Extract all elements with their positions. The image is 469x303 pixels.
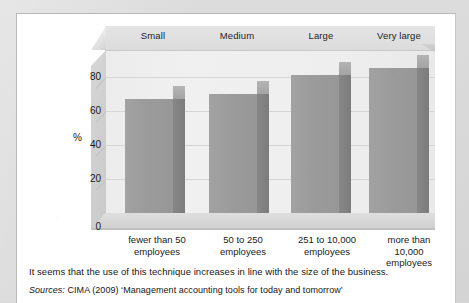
bar-very-large: [369, 68, 417, 213]
bar-very-large-side: [417, 68, 429, 213]
ytick-wrap-60: 60: [17, 111, 101, 112]
ytick-label-40: 40: [17, 139, 101, 150]
chart-floor-front-edge: [91, 228, 435, 230]
bar-small: [125, 99, 173, 213]
ytick-label-80: 80: [17, 71, 101, 82]
xlabel-small-line1: fewer than 50: [109, 234, 205, 246]
figure-source: Sources: CIMA (2009) ‘Management account…: [29, 285, 449, 295]
ytick-wrap-40: 40: [17, 145, 101, 146]
figure-source-text: CIMA (2009) ‘Management accounting tools…: [67, 285, 342, 295]
ytick-label-60: 60: [17, 105, 101, 116]
category-header-medium: Medium: [195, 30, 279, 41]
bar-large-front: [291, 75, 339, 213]
bar-very-large-top: [417, 55, 429, 68]
figure-note: It seems that the use of this technique …: [29, 266, 449, 277]
bar-small-front: [125, 99, 173, 213]
ytick-label-20: 20: [17, 173, 101, 184]
xlabel-small-line2: employees: [109, 246, 205, 258]
bar-large-top: [339, 62, 351, 75]
category-header-shelf-bevel: [91, 26, 106, 50]
bar-large: [291, 75, 339, 213]
category-header-very-large: Very large: [359, 30, 439, 41]
bar-medium-side: [257, 94, 269, 213]
y-axis-title: %: [73, 132, 82, 143]
xlabel-very-large: more than 10,000 employees: [365, 234, 453, 269]
xlabel-large-line1: 251 to 10,000: [275, 234, 379, 246]
bar-medium-front: [209, 94, 257, 213]
xlabel-large: 251 to 10,000 employees: [275, 234, 379, 257]
ytick-label-0: 0: [17, 221, 101, 232]
figure-card: Small Medium Large Very large 80 60 40: [16, 13, 456, 303]
ytick-wrap-20: 20: [17, 179, 101, 180]
xlabel-small: fewer than 50 employees: [109, 234, 205, 257]
category-header-large: Large: [281, 30, 361, 41]
bar-small-top: [173, 86, 185, 99]
category-header-small: Small: [113, 30, 193, 41]
ytick-wrap-80: 80: [17, 77, 101, 78]
bar-medium: [209, 94, 257, 213]
xlabel-very-large-line2: 10,000: [365, 246, 453, 258]
xlabel-very-large-line1: more than: [365, 234, 453, 246]
bar-chart-3d: Small Medium Large Very large 80 60 40: [17, 14, 455, 260]
bar-small-side: [173, 99, 185, 213]
figure-source-label: Sources:: [29, 285, 65, 295]
figure-footer: It seems that the use of this technique …: [29, 266, 449, 295]
bar-very-large-front: [369, 68, 417, 213]
xlabel-large-line2: employees: [275, 246, 379, 258]
ytick-wrap-0: 0: [17, 227, 101, 228]
bar-large-side: [339, 75, 351, 213]
bar-medium-top: [257, 81, 269, 94]
